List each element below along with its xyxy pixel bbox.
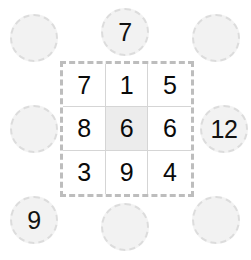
slot-bottom-left[interactable]: 9 (10, 196, 58, 244)
slot-middle-right-value: 12 (211, 117, 238, 142)
slot-top-right[interactable] (192, 14, 240, 62)
grid-cell-r2c2-value: 6 (120, 116, 133, 141)
grid-cell-r2c3-value: 6 (163, 116, 176, 141)
slot-bottom-right[interactable] (192, 196, 240, 244)
grid-cell-r3c2[interactable]: 9 (106, 151, 149, 194)
slot-bottom-left-value: 9 (27, 208, 40, 233)
grid-cell-r3c1-value: 3 (77, 160, 90, 185)
slot-bottom-center[interactable] (101, 203, 149, 251)
grid-cell-r1c1-value: 7 (77, 73, 90, 98)
grid-cell-r3c3-value: 4 (163, 160, 176, 185)
slot-middle-left[interactable] (10, 105, 58, 153)
grid-cell-r1c1[interactable]: 7 (63, 64, 106, 107)
number-grid: 7 1 5 8 6 6 3 9 4 (60, 61, 194, 197)
slot-top-center[interactable]: 7 (101, 8, 149, 56)
puzzle-stage: 7 12 9 7 1 5 8 6 6 (0, 0, 251, 260)
grid-cell-r3c2-value: 9 (120, 160, 133, 185)
grid-cell-r2c1[interactable]: 8 (63, 107, 106, 150)
grid-cell-r3c3[interactable]: 4 (148, 151, 191, 194)
grid-cell-r2c2[interactable]: 6 (106, 107, 149, 150)
grid-cell-r1c2-value: 1 (120, 73, 133, 98)
grid-cell-r3c1[interactable]: 3 (63, 151, 106, 194)
slot-top-center-value: 7 (118, 20, 131, 45)
grid-cell-r1c3-value: 5 (163, 73, 176, 98)
grid-cell-r1c3[interactable]: 5 (148, 64, 191, 107)
slot-top-left[interactable] (10, 14, 58, 62)
slot-middle-right[interactable]: 12 (200, 105, 248, 153)
grid-cell-r1c2[interactable]: 1 (106, 64, 149, 107)
grid-cell-r2c3[interactable]: 6 (148, 107, 191, 150)
grid-cell-r2c1-value: 8 (77, 116, 90, 141)
